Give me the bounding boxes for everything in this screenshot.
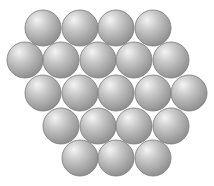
sphere-icon <box>98 75 134 111</box>
sphere-icon <box>135 140 171 176</box>
sphere-icon <box>135 10 171 46</box>
sphere-icon <box>153 42 189 78</box>
sphere-icon <box>80 42 116 78</box>
sphere-layer <box>0 0 214 186</box>
sphere-icon <box>153 108 189 144</box>
sphere-icon <box>43 42 79 78</box>
sphere-icon <box>135 75 171 111</box>
sphere-icon <box>116 42 152 78</box>
sphere-icon <box>43 108 79 144</box>
sphere-icon <box>62 75 98 111</box>
sphere-icon <box>98 10 134 46</box>
sphere-icon <box>116 108 152 144</box>
sphere-icon <box>98 140 134 176</box>
sphere-icon <box>25 10 61 46</box>
sphere-icon <box>25 75 61 111</box>
sphere-icon <box>7 42 43 78</box>
spheres-group <box>7 10 207 176</box>
sphere-icon <box>62 140 98 176</box>
sphere-packing-diagram <box>0 0 214 186</box>
sphere-icon <box>80 108 116 144</box>
sphere-icon <box>171 75 207 111</box>
sphere-icon <box>62 10 98 46</box>
